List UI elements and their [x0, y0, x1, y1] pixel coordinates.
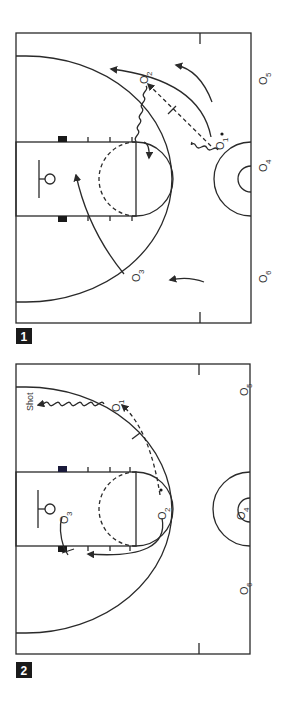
- free-throw-lane: [16, 142, 136, 216]
- cut-arrow-o1: [111, 69, 211, 137]
- diagram-number-badge: 2: [16, 662, 32, 678]
- svg-text:1: 1: [221, 137, 230, 142]
- svg-text:4: 4: [264, 159, 273, 164]
- svg-text:3: 3: [65, 511, 74, 516]
- lane-block: [58, 466, 67, 472]
- svg-text:5: 5: [264, 72, 273, 77]
- cut-arrow-o2: [88, 518, 163, 555]
- three-point-arc: [16, 387, 172, 633]
- svg-text:2: 2: [21, 664, 28, 678]
- free-throw-lane: [16, 472, 136, 546]
- free-throw-circle-top: [136, 142, 173, 216]
- lane-block: [58, 136, 67, 142]
- player-o1: O1: [110, 399, 126, 412]
- free-throw-circle-dashed: [99, 142, 136, 216]
- diagram-2: Shot O1 O2 O3 O4 O5 O6 2: [16, 364, 254, 678]
- player-o1: O1: [214, 137, 230, 150]
- player-o5: O5: [257, 72, 273, 85]
- player-o6: O6: [238, 582, 254, 595]
- pass-mark: [132, 433, 140, 439]
- ball-dot: [159, 488, 162, 491]
- center-circle-inner: [238, 166, 251, 192]
- ball-dot: [220, 132, 223, 135]
- svg-text:1: 1: [21, 330, 28, 344]
- player-o2: O2: [156, 507, 172, 520]
- free-throw-circle-dashed: [99, 472, 136, 546]
- cut-arrow-o5: [176, 65, 212, 102]
- cut-arrow-o3: [76, 175, 124, 274]
- player-o5: O5: [238, 383, 254, 396]
- diagram-1: O1 O2 O3 O4 O5 O6 1: [16, 33, 273, 344]
- pass-arrow: [148, 84, 211, 146]
- svg-text:Shot: Shot: [25, 392, 35, 411]
- basket-rim: [45, 504, 55, 514]
- play-diagrams: O1 O2 O3 O4 O5 O6 1: [0, 0, 281, 707]
- dribble-o1: [40, 402, 104, 406]
- lane-block: [58, 216, 67, 222]
- cut-arrow-o6: [170, 278, 204, 282]
- player-o3: O3: [58, 511, 74, 524]
- diagram-number-badge: 1: [16, 328, 32, 344]
- player-o6: O6: [257, 270, 273, 283]
- lane-ticks: [88, 467, 130, 551]
- svg-text:4: 4: [242, 507, 251, 512]
- svg-text:6: 6: [264, 270, 273, 275]
- svg-text:3: 3: [137, 269, 146, 274]
- svg-text:2: 2: [163, 507, 172, 512]
- center-circle: [214, 142, 251, 216]
- court-boundary: [16, 364, 250, 654]
- lane-ticks: [88, 137, 132, 221]
- svg-text:1: 1: [117, 399, 126, 404]
- pass-arrow: [122, 405, 160, 495]
- svg-text:6: 6: [245, 582, 254, 587]
- player-o4: O4: [257, 159, 273, 172]
- player-o3: O3: [130, 269, 146, 282]
- svg-text:5: 5: [245, 383, 254, 388]
- basket-rim: [45, 174, 55, 184]
- shot-label: Shot: [25, 392, 35, 411]
- svg-text:2: 2: [145, 71, 154, 76]
- dribble-o2: [135, 86, 147, 141]
